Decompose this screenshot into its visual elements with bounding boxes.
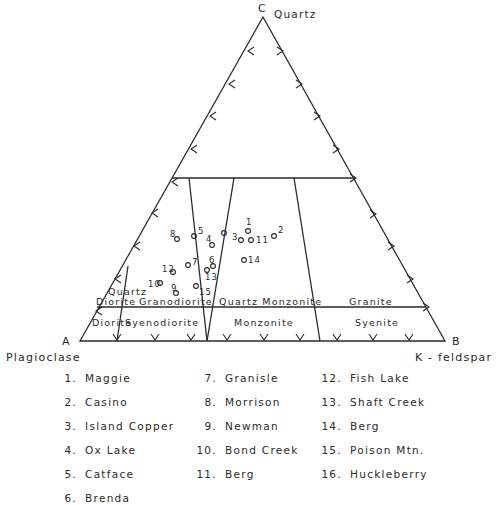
point-3	[239, 238, 244, 243]
legend-item: 1.Maggie	[55, 372, 131, 384]
point-label-9: 9	[171, 283, 178, 293]
legend-name: Fish Lake	[350, 372, 410, 384]
legend-name: Berg	[225, 468, 255, 480]
legend-name: Poison Mtn.	[350, 444, 425, 456]
legend-name: Morrison	[225, 396, 281, 408]
field-syenite-label: Syenite	[355, 317, 399, 328]
legend-item: 4.Ox Lake	[55, 444, 136, 456]
point-14	[242, 258, 247, 263]
legend-item: 15.Poison Mtn.	[320, 444, 425, 456]
vertex-b-name: K - feldspar	[415, 351, 492, 364]
legend-item: 3.Island Copper	[55, 420, 174, 432]
legend-name: Island Copper	[85, 420, 174, 432]
legend-name: Brenda	[85, 492, 130, 504]
legend-name: Berg	[350, 420, 380, 432]
point-label-3: 3	[232, 232, 239, 242]
vertex-b-letter: B	[452, 335, 461, 348]
legend-item: 12.Fish Lake	[320, 372, 410, 384]
field-quartz-diorite-label: Diorite	[96, 296, 136, 307]
point-label-8: 8	[170, 229, 177, 239]
legend-name: Bond Creek	[225, 444, 299, 456]
point-label-11: 11	[256, 235, 269, 245]
legend-name: Maggie	[85, 372, 131, 384]
vertex-a-letter: A	[62, 335, 71, 348]
point-1	[246, 229, 251, 234]
bottom-side-ticks	[113, 334, 413, 340]
point-15	[194, 284, 199, 289]
vertex-a-name: Plagioclase	[6, 351, 81, 364]
left-side-ticks	[96, 47, 254, 315]
legend-name: Shaft Creek	[350, 396, 425, 408]
legend-item: 2.Casino	[55, 396, 128, 408]
point-2	[272, 234, 277, 239]
legend-item: 7.Granisle	[195, 372, 279, 384]
legend-item: 13.Shaft Creek	[320, 396, 425, 408]
legend-item: 9.Newman	[195, 420, 279, 432]
legend-item: 10.Bond Creek	[195, 444, 299, 456]
point-11	[249, 238, 254, 243]
legend-name: Huckleberry	[350, 468, 428, 480]
legend-name: Catface	[85, 468, 134, 480]
legend-item: 16.Huckleberry	[320, 468, 428, 480]
point-label-1: 1	[246, 217, 253, 227]
point-label-6: 6	[209, 255, 216, 265]
legend-item: 6.Brenda	[55, 492, 130, 504]
legend-item: 5.Catface	[55, 468, 134, 480]
point-label-2: 2	[278, 225, 285, 235]
field-syenodiorite-label: Syenodiorite	[125, 317, 199, 328]
point-label-15: 15	[199, 287, 212, 297]
legend-item: 8.Morrison	[195, 396, 281, 408]
field-quartz-monzonite-label: Quartz Monzonite	[219, 296, 322, 307]
legend-item: 14.Berg	[320, 420, 380, 432]
legend-name: Ox Lake	[85, 444, 136, 456]
point-label-10: 10	[148, 279, 161, 289]
legend-name: Casino	[85, 396, 128, 408]
divider-granite	[294, 178, 320, 341]
field-monzonite-label: Monzonite	[234, 317, 294, 328]
point-label-12: 12	[162, 264, 175, 274]
vertex-c-name: Quartz	[274, 8, 317, 20]
point-label-7: 7	[192, 257, 199, 267]
legend-name: Granisle	[225, 372, 279, 384]
legend-name: Newman	[225, 420, 279, 432]
point-7	[186, 263, 191, 268]
vertex-c-letter: C	[258, 2, 267, 15]
field-granite-label: Granite	[349, 296, 393, 307]
point-label-4: 4	[206, 234, 213, 244]
point-label-13: 13	[205, 272, 218, 282]
point-label-14: 14	[248, 255, 261, 265]
field-granodiorite-label: Granodiorite	[139, 296, 213, 307]
point-label-5: 5	[198, 226, 205, 236]
legend-item: 11.Berg	[195, 468, 255, 480]
